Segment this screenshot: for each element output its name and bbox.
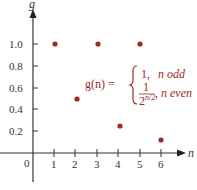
y-axis-label: g (29, 0, 35, 11)
svg-text:n odd: n odd (158, 67, 186, 81)
x-axis-arrow-icon (177, 150, 186, 157)
y-ticks (33, 44, 38, 131)
x-tick-label: 0 (24, 157, 30, 169)
chart: g n 1.0 0.8 0.6 0.4 0.2 0 1 2 3 4 5 6 g(… (0, 0, 197, 190)
data-point (95, 41, 100, 46)
x-tick-label: 3 (94, 158, 100, 170)
y-tick-label: 0.4 (9, 103, 23, 115)
data-point (117, 123, 122, 128)
svg-text:n even: n even (161, 86, 192, 100)
data-point (158, 137, 163, 142)
x-axis-label: n (188, 146, 194, 160)
svg-text:1: 1 (143, 80, 149, 94)
formula-annotation: g(n) = 1, n odd 1 2 n/2 , n even (85, 66, 192, 108)
x-tick-label: 5 (137, 158, 143, 170)
x-tick-label: 2 (72, 158, 78, 170)
svg-text:n/2: n/2 (145, 93, 155, 102)
y-tick-label: 0.2 (9, 125, 23, 137)
x-tick-label: 4 (115, 158, 121, 170)
svg-text:,: , (155, 86, 158, 100)
data-point (52, 41, 57, 46)
x-tick-label: 6 (158, 158, 164, 170)
y-tick-label: 0.8 (9, 60, 23, 72)
y-tick-label: 0.6 (9, 82, 23, 94)
svg-text:g(n) =: g(n) = (85, 77, 115, 91)
data-point (74, 96, 79, 101)
y-tick-label: 1.0 (9, 38, 23, 50)
x-tick-label: 1 (51, 158, 57, 170)
data-point (137, 41, 142, 46)
svg-text:1,: 1, (141, 67, 150, 81)
